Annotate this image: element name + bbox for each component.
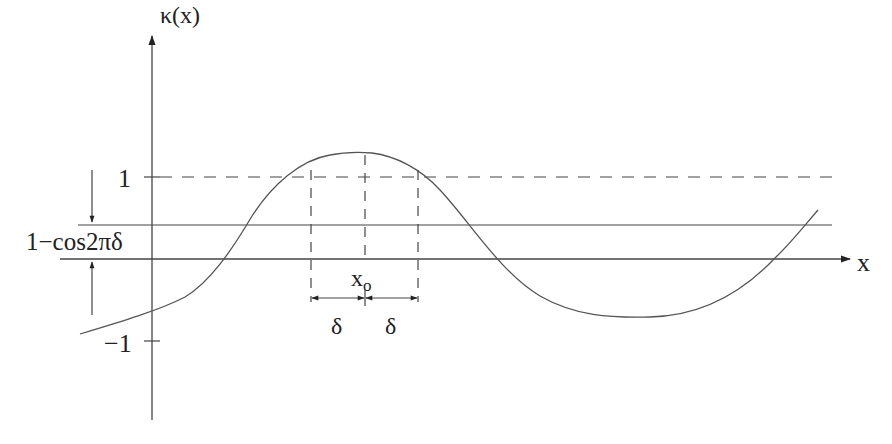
x-axis-label: x — [857, 248, 870, 277]
kappa-diagram: κ(x) x 1 −1 1−cos2πδ xo δ δ — [0, 0, 892, 444]
delta-right-label: δ — [385, 313, 396, 339]
kappa-curve — [80, 152, 818, 334]
tick-label-plus-one: 1 — [118, 164, 131, 193]
peak-label-base: x — [351, 265, 363, 291]
peak-label-sub: o — [363, 276, 372, 295]
y-axis-label: κ(x) — [160, 2, 200, 28]
threshold-label: 1−cos2πδ — [26, 228, 123, 255]
delta-left-label: δ — [331, 313, 342, 339]
peak-label: xo — [351, 265, 372, 295]
tick-label-minus-one: −1 — [104, 329, 132, 358]
